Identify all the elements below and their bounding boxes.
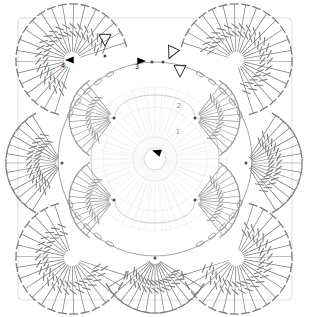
chain-stitch bbox=[195, 71, 204, 78]
round-4-arrow bbox=[65, 56, 74, 63]
fan-left bbox=[6, 113, 63, 213]
join-dot bbox=[154, 257, 157, 260]
fan-top-right bbox=[181, 4, 292, 115]
chain-stitch bbox=[105, 71, 114, 78]
chain-stitch bbox=[105, 240, 114, 247]
join-dot bbox=[113, 199, 116, 202]
chain-stitch bbox=[83, 87, 92, 96]
join-dot bbox=[113, 117, 116, 120]
join-dot bbox=[61, 162, 64, 165]
crochet-chart-canvas: 1 2 3 4 bbox=[0, 0, 309, 317]
join-dot bbox=[194, 199, 197, 202]
chain-stitch bbox=[83, 223, 92, 232]
join-dot bbox=[245, 162, 248, 165]
fan-right bbox=[245, 113, 302, 213]
chain-stitch bbox=[195, 240, 204, 247]
join-marker-right-upper bbox=[164, 45, 180, 61]
chain-stitch bbox=[67, 109, 74, 118]
join-marker-right-lower bbox=[174, 65, 186, 77]
crochet-diagram-svg bbox=[0, 0, 309, 317]
chain-stitch bbox=[67, 199, 74, 208]
chain-stitch bbox=[219, 223, 228, 232]
chain-stitch bbox=[208, 78, 217, 86]
join-dot bbox=[162, 61, 165, 64]
round-label-3: 3 bbox=[135, 63, 139, 70]
chain-stitch bbox=[208, 232, 217, 240]
join-dot bbox=[151, 61, 154, 64]
chain-stitch bbox=[93, 78, 102, 86]
chain-stitch bbox=[93, 232, 102, 240]
round-label-4: 4 bbox=[61, 62, 65, 69]
outer-corner-fans bbox=[6, 4, 302, 314]
join-dot bbox=[104, 55, 107, 58]
chain-stitch bbox=[219, 87, 228, 96]
round-label-1: 1 bbox=[176, 128, 180, 135]
fan-bottom-right bbox=[181, 203, 292, 314]
round-label-2: 2 bbox=[177, 102, 181, 109]
fan-bottom-left bbox=[16, 203, 127, 314]
join-dot bbox=[194, 117, 197, 120]
